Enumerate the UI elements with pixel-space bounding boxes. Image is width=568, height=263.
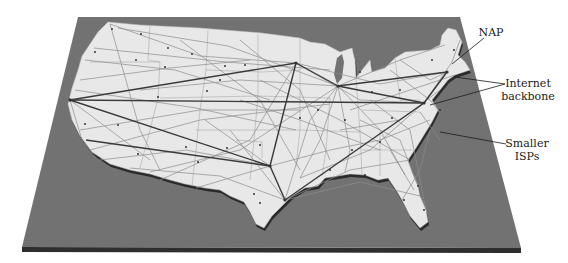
smaller-isps-label: Smaller ISPs	[502, 137, 552, 163]
backbone-label-line1: Internet	[500, 77, 556, 90]
backbone-label-line2: backbone	[500, 90, 556, 103]
us-internet-map	[0, 0, 568, 263]
nap-label-text: NAP	[479, 26, 504, 39]
isps-label-line1: Smaller	[502, 137, 552, 150]
nap-label: NAP	[474, 26, 508, 39]
internet-backbone-label: Internet backbone	[500, 77, 556, 103]
board-edge	[22, 247, 521, 253]
isps-label-line2: ISPs	[502, 150, 552, 163]
